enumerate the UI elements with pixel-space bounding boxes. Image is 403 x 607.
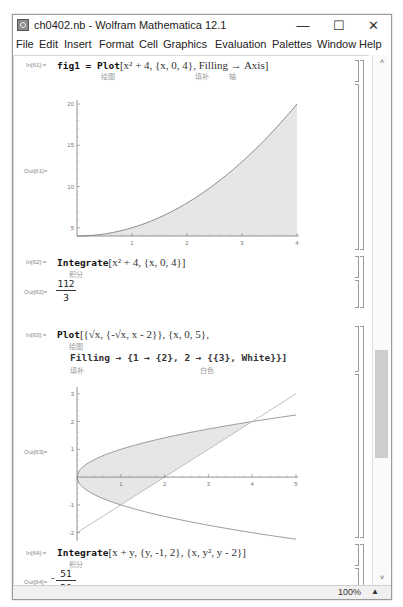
mathematica-window: ch0402.nb - Wolfram Mathematica 12.1 — ☐… bbox=[12, 14, 392, 600]
cell-bracket-in62[interactable] bbox=[355, 256, 359, 278]
y-tick-label: -2 bbox=[69, 530, 75, 536]
menu-graphics[interactable]: Graphics bbox=[163, 38, 207, 50]
code-integrate: Integrate bbox=[57, 257, 108, 268]
in-label-62: In[62]:= bbox=[26, 259, 46, 265]
x-tick-label: 3 bbox=[240, 240, 244, 246]
x-tick-label: 3 bbox=[207, 481, 211, 487]
maximize-button[interactable]: ☐ bbox=[325, 16, 353, 36]
in-label-61: In[61]:= bbox=[26, 62, 46, 68]
close-button[interactable]: ✕ bbox=[359, 16, 387, 36]
minimize-button[interactable]: — bbox=[289, 16, 317, 36]
cell-bracket-out61[interactable] bbox=[355, 84, 359, 250]
cell-bracket-in61[interactable] bbox=[355, 60, 359, 82]
menu-palettes[interactable]: Palettes bbox=[272, 38, 312, 50]
zoom-menu-arrow-icon[interactable]: ▲ bbox=[371, 587, 379, 596]
y-tick-label: 3 bbox=[71, 391, 75, 397]
input-cell-61[interactable]: fig1 = Plot[x² + 4, {x, 0, 4}, Filling →… bbox=[57, 59, 268, 71]
group-bracket-61[interactable] bbox=[360, 60, 364, 250]
menu-evaluation[interactable]: Evaluation bbox=[215, 38, 266, 50]
menu-format[interactable]: Format bbox=[99, 38, 134, 50]
x-tick-label: 5 bbox=[294, 481, 298, 487]
plot-region-between-curves[interactable]: 12345-2-1123 bbox=[44, 376, 314, 546]
plot-parabola-filled[interactable]: 12345101520 bbox=[44, 86, 314, 268]
y-tick-label: 10 bbox=[67, 184, 74, 190]
notebook-area[interactable]: In[61]:= fig1 = Plot[x² + 4, {x, 0, 4}, … bbox=[13, 55, 369, 585]
x-tick-label: 2 bbox=[185, 240, 189, 246]
mathematica-app-icon bbox=[17, 19, 29, 31]
code-args: [{√x, {-√x, x - 2}}, {x, 0, 5}, bbox=[80, 328, 209, 340]
menu-bar: File Edit Insert Format Cell Graphics Ev… bbox=[13, 37, 391, 54]
code-args: [x + y, {y, -1, 2}, {x, y², y - 2}] bbox=[108, 546, 245, 558]
cell-bracket-out64[interactable] bbox=[355, 568, 359, 586]
hint-white: 白色 bbox=[200, 365, 214, 375]
y-tick-label: 5 bbox=[71, 225, 75, 231]
input-cell-62[interactable]: Integrate[x² + 4, {x, 0, 4}] bbox=[57, 256, 185, 268]
scroll-down-arrow-icon[interactable]: ˅ bbox=[376, 573, 388, 583]
cell-bracket-out62[interactable] bbox=[355, 280, 359, 308]
y-tick-label: -1 bbox=[69, 502, 75, 508]
in-label-64: In[64]:= bbox=[26, 550, 46, 556]
vertical-scrollbar[interactable]: ˄ ˅ bbox=[372, 55, 390, 585]
code-integrate: Integrate bbox=[57, 547, 108, 558]
hint-axis: 轴 bbox=[229, 71, 236, 81]
hint-filling: 填补 bbox=[70, 365, 84, 375]
input-cell-64[interactable]: Integrate[x + y, {y, -1, 2}, {x, y², y -… bbox=[57, 546, 246, 558]
output-64-sign: - bbox=[50, 573, 55, 583]
status-bar: 100% ▲ bbox=[13, 585, 391, 600]
menu-help[interactable]: Help bbox=[359, 38, 382, 50]
numerator: 112 bbox=[56, 278, 76, 289]
cell-bracket-in63[interactable] bbox=[355, 326, 359, 372]
group-bracket-63[interactable] bbox=[360, 326, 364, 538]
numerator: 51 bbox=[56, 568, 76, 579]
scroll-up-arrow-icon[interactable]: ˄ bbox=[376, 57, 388, 67]
menu-edit[interactable]: Edit bbox=[39, 38, 58, 50]
code-fig1-plot: fig1 = Plot bbox=[57, 60, 120, 71]
y-tick-label: 20 bbox=[67, 101, 74, 107]
cell-bracket-in64[interactable] bbox=[355, 544, 359, 566]
menu-cell[interactable]: Cell bbox=[139, 38, 158, 50]
x-tick-label: 2 bbox=[163, 481, 167, 487]
title-bar: ch0402.nb - Wolfram Mathematica 12.1 — ☐… bbox=[13, 15, 391, 37]
x-tick-label: 4 bbox=[251, 481, 255, 487]
window-title: ch0402.nb - Wolfram Mathematica 12.1 bbox=[34, 19, 226, 31]
group-bracket-64[interactable] bbox=[360, 544, 364, 586]
input-cell-63[interactable]: Plot[{√x, {-√x, x - 2}}, {x, 0, 5}, bbox=[57, 328, 209, 340]
menu-file[interactable]: File bbox=[16, 38, 34, 50]
code-args: [x² + 4, {x, 0, 4}] bbox=[108, 256, 185, 268]
code-args: [x² + 4, {x, 0, 4}, Filling → Axis] bbox=[120, 59, 268, 71]
output-62-fraction: 112 3 bbox=[56, 278, 76, 303]
menu-insert[interactable]: Insert bbox=[64, 38, 92, 50]
filling-area bbox=[77, 104, 297, 236]
out-label-62: Out[62]= bbox=[24, 289, 47, 295]
in-label-63: In[63]:= bbox=[26, 332, 46, 338]
scrollbar-thumb[interactable] bbox=[375, 350, 388, 458]
denominator: 3 bbox=[56, 292, 76, 303]
hint-plot: 绘图 bbox=[101, 71, 115, 81]
code-plot: Plot bbox=[57, 329, 80, 340]
hint-plot: 绘图 bbox=[69, 341, 83, 351]
y-tick-label: 2 bbox=[71, 419, 75, 425]
input-cell-63-line2[interactable]: Filling → {1 → {2}, 2 → {{3}, White}}] bbox=[70, 352, 287, 363]
x-tick-label: 1 bbox=[130, 240, 134, 246]
zoom-level[interactable]: 100% bbox=[338, 587, 361, 597]
menu-window[interactable]: Window bbox=[317, 38, 356, 50]
y-tick-label: 15 bbox=[67, 142, 74, 148]
x-tick-label: 4 bbox=[295, 240, 299, 246]
filling-region bbox=[77, 422, 252, 505]
cell-bracket-out63[interactable] bbox=[355, 374, 359, 538]
code-filling: Filling → {1 → {2}, 2 → {{3}, White}}] bbox=[70, 352, 287, 363]
group-bracket-62[interactable] bbox=[360, 256, 364, 308]
hint-filling: 填补 bbox=[195, 71, 209, 81]
y-tick-label: 1 bbox=[71, 446, 75, 452]
